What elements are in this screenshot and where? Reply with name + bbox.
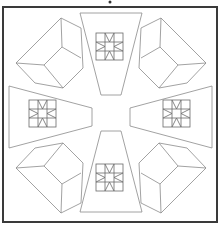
trapezoid-left — [9, 86, 92, 148]
cube-group — [16, 18, 206, 213]
geometric-pattern — [0, 0, 222, 227]
trapezoid-right — [130, 86, 212, 148]
quilt-block — [29, 100, 56, 127]
trapezoid-bottom — [80, 131, 142, 212]
quilt-block — [96, 164, 123, 191]
cube-top-left — [16, 18, 83, 88]
cube-bottom-right — [139, 143, 206, 213]
trapezoid-outline — [80, 131, 142, 212]
quilt-block — [96, 33, 123, 60]
top-mark — [109, 1, 112, 4]
trapezoid-outline — [130, 86, 212, 148]
cube-top-right — [139, 18, 206, 88]
outer-frame — [3, 7, 217, 222]
quilt-block — [163, 100, 190, 127]
trapezoid-top — [80, 13, 142, 95]
trapezoid-outline — [9, 86, 92, 148]
trapezoid-group — [9, 13, 212, 212]
cube-bottom-left — [16, 143, 83, 213]
